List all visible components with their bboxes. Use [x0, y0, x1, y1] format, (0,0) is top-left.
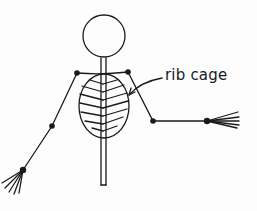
skeleton-diagram: rib cage — [0, 0, 257, 211]
right-hand — [207, 112, 239, 128]
left-hand — [2, 170, 23, 194]
head — [83, 15, 125, 57]
rib-cage-label: rib cage — [165, 66, 227, 84]
skeleton-drawing — [0, 0, 257, 211]
ribs — [80, 80, 128, 131]
spine — [101, 58, 106, 185]
left-arm — [23, 73, 77, 170]
